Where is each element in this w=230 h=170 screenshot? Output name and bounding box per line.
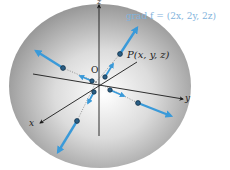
sphere	[9, 4, 191, 168]
origin-label: O	[91, 66, 98, 75]
y-axis-label: y	[185, 94, 190, 103]
z-axis-label: z	[97, 0, 101, 6]
gradient-sphere-diagram	[0, 0, 230, 170]
gradient-formula-label: grad f = (2x, 2y, 2z)	[126, 12, 216, 21]
point-p-label: P(x, y, z)	[127, 50, 169, 60]
point-p	[118, 52, 123, 57]
x-axis-label: x	[29, 119, 34, 128]
